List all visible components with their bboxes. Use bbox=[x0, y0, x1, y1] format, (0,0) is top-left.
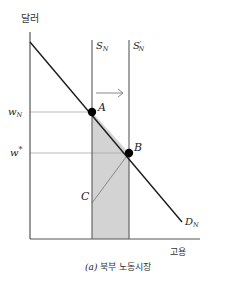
point-b-marker bbox=[125, 149, 133, 157]
point-a-marker bbox=[88, 108, 96, 116]
point-c-label: C bbox=[81, 190, 90, 203]
x-axis-label: 고용 bbox=[170, 247, 186, 257]
supply-prime-label: S′N bbox=[133, 40, 144, 53]
point-a-label: A bbox=[97, 101, 106, 114]
point-b-label: B bbox=[133, 141, 142, 154]
wage-eq-label: w* bbox=[10, 145, 23, 158]
y-axis-label: 달러 bbox=[21, 13, 39, 24]
shaded-area bbox=[92, 112, 129, 239]
wage-high-label: wN bbox=[8, 106, 23, 119]
caption: (a)북부 노동시장 bbox=[85, 262, 151, 272]
supply-label: SN bbox=[96, 40, 109, 53]
demand-label: DN bbox=[184, 216, 199, 229]
labor-market-diagram: 달러 고용 SN S′N DN wN w* A B C (a)북부 노동시장 bbox=[0, 0, 226, 284]
shift-arrow-icon bbox=[96, 89, 123, 97]
